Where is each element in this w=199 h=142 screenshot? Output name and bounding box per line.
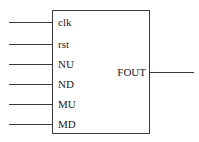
input-port-rst: rst (9, 38, 69, 50)
input-label-rst: rst (58, 38, 69, 50)
block-diagram: clk rst NU ND MU MD FOUT (0, 0, 199, 142)
input-label-nu: NU (58, 58, 74, 70)
input-label-nd: ND (58, 78, 74, 90)
input-port-nu: NU (9, 58, 74, 70)
input-port-md: MD (9, 118, 76, 130)
input-label-mu: MU (58, 98, 76, 110)
output-label-fout: FOUT (117, 66, 146, 78)
input-label-md: MD (58, 118, 76, 130)
input-label-clk: clk (58, 16, 72, 28)
output-port-fout: FOUT (117, 66, 194, 78)
input-port-clk: clk (9, 16, 72, 28)
input-port-nd: ND (9, 78, 74, 90)
input-port-mu: MU (9, 98, 76, 110)
